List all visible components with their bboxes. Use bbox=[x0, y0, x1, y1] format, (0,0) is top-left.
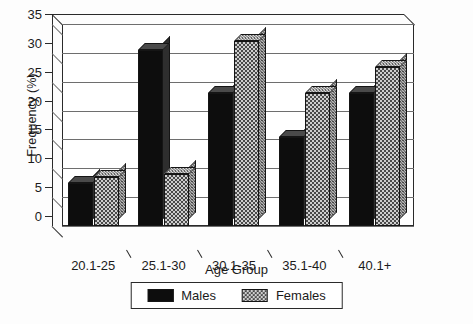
bar-males-30.1-35 bbox=[208, 93, 233, 226]
bar-males-20.1-25 bbox=[68, 183, 93, 226]
plot-area: 05101520253035 20.1-2525.1-3030.1-3535.1… bbox=[62, 14, 414, 236]
y-axis-tick-label: 0 bbox=[35, 209, 42, 224]
bar-series-container bbox=[62, 24, 414, 226]
gridline bbox=[62, 226, 414, 227]
plot-depth-top-edge bbox=[52, 14, 404, 15]
bar-males-25.1-30 bbox=[138, 50, 163, 226]
bar-side-face bbox=[259, 27, 266, 219]
bar-front-face bbox=[279, 137, 304, 226]
x-axis-tick bbox=[197, 250, 202, 258]
bar-group bbox=[273, 24, 343, 226]
bar-females-40.1+ bbox=[375, 67, 400, 226]
y-axis-tick-label: 35 bbox=[28, 7, 42, 22]
bar-front-face bbox=[138, 50, 163, 226]
bar-females-30.1-35 bbox=[234, 41, 259, 226]
bar-front-face bbox=[234, 41, 259, 226]
bar-front-face bbox=[68, 183, 93, 226]
bar-group bbox=[62, 24, 132, 226]
gridline-depth bbox=[52, 226, 63, 237]
bar-females-20.1-25 bbox=[94, 177, 119, 226]
bar-front-face bbox=[164, 174, 189, 226]
legend-swatch-females bbox=[242, 289, 268, 302]
y-axis-title: Frequency (%) bbox=[25, 35, 39, 195]
y-axis-tick-label: 5 bbox=[35, 180, 42, 195]
y-axis-tick bbox=[45, 158, 52, 159]
y-axis-tick-label: 15 bbox=[28, 122, 42, 137]
y-axis-tick-label: 30 bbox=[28, 35, 42, 50]
y-axis-tick-label: 10 bbox=[28, 151, 42, 166]
legend-label: Males bbox=[181, 288, 216, 303]
legend-swatch-males bbox=[147, 289, 173, 302]
chart-legend: MalesFemales bbox=[130, 282, 343, 309]
x-axis-tick bbox=[126, 250, 131, 258]
bar-group bbox=[344, 24, 414, 226]
chart-figure: Frequency (%) 05101520253035 20.1-2525.1… bbox=[0, 0, 473, 324]
bar-front-face bbox=[305, 93, 330, 226]
bar-front-face bbox=[375, 67, 400, 226]
legend-item-females: Females bbox=[242, 288, 326, 303]
plot-depth-left-edge bbox=[52, 14, 53, 226]
bar-females-25.1-30 bbox=[164, 174, 189, 226]
bar-side-face bbox=[330, 79, 337, 219]
y-axis-tick bbox=[45, 14, 52, 15]
bar-group bbox=[132, 24, 202, 226]
y-axis-tick bbox=[45, 72, 52, 73]
bar-females-35.1-40 bbox=[305, 93, 330, 226]
x-axis-title: Age Group bbox=[0, 262, 473, 277]
y-axis-tick bbox=[45, 43, 52, 44]
y-axis-tick-label: 20 bbox=[28, 93, 42, 108]
legend-item-males: Males bbox=[147, 288, 216, 303]
y-axis-tick-label: 25 bbox=[28, 64, 42, 79]
bar-side-face bbox=[400, 53, 407, 219]
bar-front-face bbox=[94, 177, 119, 226]
bar-males-35.1-40 bbox=[279, 137, 304, 226]
y-axis-tick bbox=[45, 216, 52, 217]
y-axis-tick bbox=[45, 187, 52, 188]
bar-males-40.1+ bbox=[349, 93, 374, 226]
legend-label: Females bbox=[276, 288, 326, 303]
bar-front-face bbox=[208, 93, 233, 226]
bar-group bbox=[203, 24, 273, 226]
x-axis-tick bbox=[338, 250, 343, 258]
x-axis-tick bbox=[267, 250, 272, 258]
y-axis-tick bbox=[45, 101, 52, 102]
y-axis-tick bbox=[45, 129, 52, 130]
bar-front-face bbox=[349, 93, 374, 226]
